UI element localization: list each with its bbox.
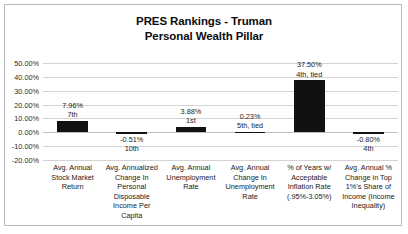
bar-value-label: 0.23% bbox=[219, 112, 281, 121]
bar bbox=[353, 132, 384, 133]
x-axis-category-label-line: 1%'s Share of bbox=[338, 182, 398, 192]
x-axis-category-label-line: Avg. Annual bbox=[161, 163, 221, 173]
bar-data-label: 7.96%7th bbox=[42, 101, 104, 119]
bar-data-label: 3.88%1st bbox=[160, 107, 222, 125]
x-axis-category-label-line: Unemployment bbox=[161, 173, 221, 183]
bar-data-label: -0.51%10th bbox=[101, 135, 163, 153]
x-axis-category-label-line: Avg. Annual % bbox=[338, 163, 398, 173]
y-axis-tick-label: 0.00% bbox=[18, 128, 39, 137]
bar-value-label: 7.96% bbox=[42, 101, 104, 110]
y-axis-tick-label: -10.00% bbox=[12, 142, 39, 151]
x-axis-category-label-line: (.95%-3.05%) bbox=[279, 192, 339, 202]
x-axis-category-label: Avg. AnnualChange InUnemploymentRate bbox=[220, 163, 280, 201]
bar-rank-label: 4th bbox=[337, 144, 399, 153]
bar-value-label: -0.80% bbox=[337, 135, 399, 144]
bar-data-label: 0.23%5th, tied bbox=[219, 112, 281, 130]
x-axis-category-label-line: Change In bbox=[102, 173, 162, 183]
x-axis-category-labels: Avg. AnnualStock MarketReturnAvg. Annual… bbox=[43, 163, 398, 225]
x-axis-category-label-line: Change In bbox=[220, 173, 280, 183]
bar-value-label: 37.50% bbox=[278, 60, 340, 69]
x-axis-category-label-line: Disposable bbox=[102, 192, 162, 202]
x-axis-category-label-line: Rate bbox=[220, 192, 280, 202]
zero-gridline bbox=[43, 132, 398, 133]
bar bbox=[116, 132, 147, 133]
y-axis-tick-labels: 50.00%40.00%30.00%20.00%10.00%0.00%-10.0… bbox=[5, 63, 41, 160]
x-axis-line bbox=[43, 160, 398, 161]
chart-title-line-1: PRES Rankings - Truman bbox=[5, 14, 403, 29]
x-axis-category-label-line: Personal bbox=[102, 182, 162, 192]
x-axis-category-label-line: Avg. Annual bbox=[42, 163, 102, 173]
x-axis-category-label: Avg. Annual %Change in Top1%'s Share ofI… bbox=[338, 163, 398, 211]
bar bbox=[294, 80, 325, 132]
bar-value-label: -0.51% bbox=[101, 135, 163, 144]
bar-rank-label: 10th bbox=[101, 144, 163, 153]
bar-rank-label: 5th, tied bbox=[219, 121, 281, 130]
x-axis-category-label-line: % of Years w/ bbox=[279, 163, 339, 173]
x-axis-category-label-line: Acceptable bbox=[279, 173, 339, 183]
bar-data-label: 37.50%4th, tied bbox=[278, 60, 340, 78]
gridline bbox=[43, 91, 398, 92]
bar-data-label: -0.80%4th bbox=[337, 135, 399, 153]
bar-rank-label: 7th bbox=[42, 110, 104, 119]
chart-title-line-2: Personal Wealth Pillar bbox=[5, 29, 403, 44]
x-axis-category-label-line: Return bbox=[42, 182, 102, 192]
x-axis-category-label-line: Rate bbox=[161, 182, 221, 192]
bar-rank-label: 4th, tied bbox=[278, 70, 340, 79]
bar-value-label: 3.88% bbox=[160, 107, 222, 116]
y-axis-tick-label: 20.00% bbox=[14, 100, 39, 109]
y-axis-tick-label: 40.00% bbox=[14, 72, 39, 81]
gridline bbox=[43, 63, 398, 64]
plot-area: 7.96%7th-0.51%10th3.88%1st0.23%5th, tied… bbox=[43, 63, 398, 160]
x-axis-category-label-line: Inequality) bbox=[338, 201, 398, 211]
chart-title: PRES Rankings - Truman Personal Wealth P… bbox=[5, 14, 403, 44]
x-axis-category-label: Avg. AnnualUnemploymentRate bbox=[161, 163, 221, 192]
x-axis-category-label-line: Income Per bbox=[102, 201, 162, 211]
y-axis-tick-label: 10.00% bbox=[14, 114, 39, 123]
chart-container: PRES Rankings - Truman Personal Wealth P… bbox=[4, 4, 402, 226]
x-axis-category-label: Avg. AnnualStock MarketReturn bbox=[42, 163, 102, 192]
y-axis-tick-label: -20.00% bbox=[12, 156, 39, 165]
bar bbox=[57, 121, 88, 132]
bar-rank-label: 1st bbox=[160, 116, 222, 125]
bar bbox=[176, 127, 207, 132]
x-axis-category-label-line: Unemployment bbox=[220, 182, 280, 192]
x-axis-category-label-line: Capita bbox=[102, 211, 162, 221]
gridline bbox=[43, 77, 398, 78]
y-axis-tick-label: 50.00% bbox=[14, 59, 39, 68]
x-axis-category-label-line: Inflation Rate bbox=[279, 182, 339, 192]
x-axis-category-label: Avg. AnnualizedChange InPersonalDisposab… bbox=[102, 163, 162, 221]
x-axis-category-label-line: Avg. Annual bbox=[220, 163, 280, 173]
bar bbox=[235, 132, 266, 133]
x-axis-category-label-line: Stock Market bbox=[42, 173, 102, 183]
y-axis-tick-label: 30.00% bbox=[14, 86, 39, 95]
x-axis-category-label-line: Income (Income bbox=[338, 192, 398, 202]
x-axis-category-label-line: Avg. Annualized bbox=[102, 163, 162, 173]
x-axis-category-label: % of Years w/AcceptableInflation Rate(.9… bbox=[279, 163, 339, 201]
x-axis-category-label-line: Change in Top bbox=[338, 173, 398, 183]
